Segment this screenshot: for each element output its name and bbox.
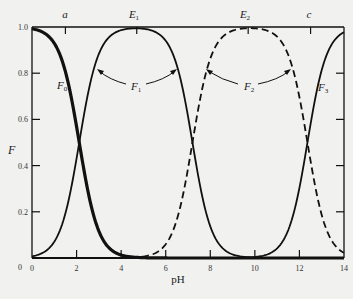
label-a: a — [62, 8, 68, 20]
annotation-arrows — [99, 71, 289, 84]
x-tick-label: 10 — [251, 264, 259, 273]
x-tick-label: 12 — [295, 264, 303, 273]
y-axis-ticks: 00.20.40.60.81.0 — [18, 23, 344, 272]
x-tick-label: 4 — [119, 264, 123, 273]
curve-f1 — [32, 28, 344, 258]
x-tick-label: 8 — [208, 264, 212, 273]
y-tick-label: 1.0 — [18, 23, 28, 32]
distribution-chart: 00.20.40.60.81.0 02468101214 F pH a E1 E… — [0, 0, 353, 299]
label-F3: F3 — [317, 81, 329, 95]
y-tick-label: 0.4 — [18, 162, 28, 171]
x-tick-label: 6 — [164, 264, 168, 273]
label-E1: E1 — [128, 8, 140, 22]
y-axis-label: F — [7, 143, 16, 157]
y-tick-label: 0.6 — [18, 115, 28, 124]
x-axis-ticks: 02468101214 — [30, 250, 348, 273]
curves — [32, 28, 344, 258]
label-c: c — [307, 8, 312, 20]
x-tick-label: 14 — [340, 264, 348, 273]
x-tick-label: 2 — [75, 264, 79, 273]
y-tick-label: 0.8 — [18, 69, 28, 78]
y-tick-label: 0.2 — [18, 208, 28, 217]
y-tick-label: 0 — [18, 263, 22, 272]
label-E2: E2 — [239, 8, 251, 22]
label-F0: F0 — [56, 79, 68, 93]
x-tick-label: 0 — [30, 264, 34, 273]
label-F1: F1 — [130, 80, 142, 94]
arrow-heads — [97, 69, 291, 75]
x-axis-label: pH — [171, 273, 185, 285]
label-F2: F2 — [243, 80, 255, 94]
